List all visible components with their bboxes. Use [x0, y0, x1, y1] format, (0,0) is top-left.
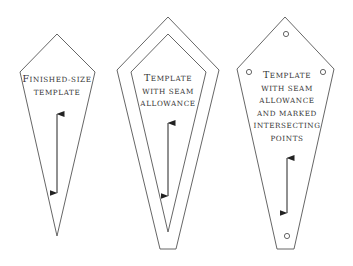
- label-initial: T: [263, 69, 270, 80]
- label-line: and marked: [237, 108, 337, 121]
- seam-allowance-template: [117, 17, 219, 249]
- label-line: allowance: [118, 98, 218, 111]
- label-line: Template: [118, 72, 218, 86]
- label-rest: inished-size: [30, 75, 92, 84]
- label-line: Finished-size: [7, 73, 107, 87]
- label-rest: emplate: [151, 74, 192, 83]
- label-line: with seam: [118, 86, 218, 99]
- marked-points-label: Template with seam allowance and marked …: [237, 69, 337, 146]
- finished-size-template: [20, 34, 95, 236]
- label-line: template: [7, 87, 107, 100]
- marked-point-top-icon: [283, 31, 288, 36]
- seam-allowance-label: Template with seam allowance: [118, 72, 218, 111]
- label-line: Template: [237, 69, 337, 83]
- label-line: with seam: [237, 83, 337, 96]
- label-line: intersecting: [237, 120, 337, 133]
- label-line: points: [237, 133, 337, 146]
- finished-size-label: Finished-size template: [7, 73, 107, 99]
- label-initial: F: [22, 73, 29, 84]
- marked-point-bottom-icon: [284, 233, 289, 238]
- label-rest: emplate: [270, 71, 311, 80]
- label-initial: T: [144, 72, 151, 83]
- label-line: allowance: [237, 95, 337, 108]
